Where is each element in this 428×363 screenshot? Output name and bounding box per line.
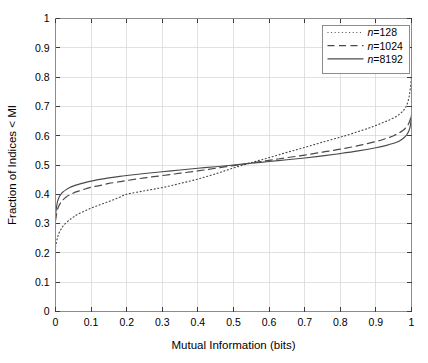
y-tick-label: 0.7 (35, 100, 50, 112)
y-tick-label: 0.4 (35, 188, 50, 200)
y-tick-label: 0.9 (35, 42, 50, 54)
y-tick-label: 1 (44, 12, 50, 24)
y-tick-label: 0.6 (35, 130, 50, 142)
y-tick-label: 0.2 (35, 247, 50, 259)
chart-figure: 00.10.20.30.40.50.60.70.80.9100.10.20.30… (0, 0, 428, 363)
x-tick-label: 0.3 (155, 316, 170, 328)
x-tick-label: 0.7 (297, 316, 312, 328)
legend-label-value: =8192 (373, 53, 403, 65)
x-tick-label: 0.8 (333, 316, 348, 328)
x-tick-label: 0.4 (191, 316, 206, 328)
x-axis-title: Mutual Information (bits) (172, 339, 296, 351)
x-tick-label: 0.9 (369, 316, 384, 328)
y-tick-label: 0 (44, 305, 50, 317)
chart-canvas: 00.10.20.30.40.50.60.70.80.9100.10.20.30… (0, 0, 428, 363)
legend: n=128n=1024n=8192 (323, 26, 410, 74)
x-tick-label: 0.2 (119, 316, 134, 328)
legend-label-value: =128 (373, 26, 397, 38)
legend-label-value: =1024 (373, 40, 403, 52)
x-tick-label: 0.1 (84, 316, 99, 328)
y-tick-label: 0.8 (35, 71, 50, 83)
y-axis-title: Fraction of Indices < MI (6, 105, 18, 225)
x-tick-label: 1 (409, 316, 415, 328)
y-tick-label: 0.3 (35, 217, 50, 229)
x-tick-label: 0.5 (226, 316, 241, 328)
x-tick-label: 0.6 (262, 316, 277, 328)
x-tick-label: 0 (53, 316, 59, 328)
y-tick-label: 0.5 (35, 159, 50, 171)
y-tick-label: 0.1 (35, 276, 50, 288)
legend-label: n=8192 (368, 53, 403, 65)
legend-label: n=1024 (368, 40, 403, 52)
legend-label: n=128 (368, 26, 398, 38)
